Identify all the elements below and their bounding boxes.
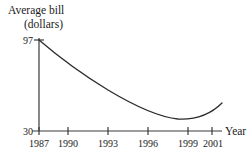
x-tick-label-1993: 1993 [98,138,118,149]
line-chart-canvas: Average bill (dollars) 97 30 1987 1990 1… [0,0,252,155]
x-axis-title: Year [225,125,246,137]
x-tick-label-1999: 1999 [178,138,198,149]
x-tick-label-1990: 1990 [58,138,78,149]
x-tick-label-1987: 1987 [29,138,49,149]
y-axis-title-line2: (dollars) [24,18,63,31]
chart-figure: Average bill (dollars) 97 30 1987 1990 1… [0,0,252,155]
y-tick-label-bottom: 30 [23,126,33,137]
x-tick-label-1996: 1996 [138,138,158,149]
x-tick-label-2001: 2001 [203,138,223,149]
y-axis-title-line1: Average bill [8,4,64,17]
data-series-line [39,40,222,119]
y-tick-label-top: 97 [23,35,33,46]
